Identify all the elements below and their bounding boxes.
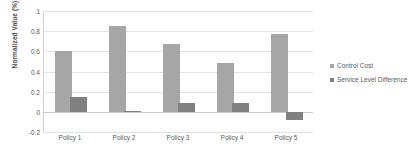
legend: Control CostService Level Difference (330, 62, 407, 83)
legend-label: Control Cost (337, 62, 373, 69)
bar (109, 26, 126, 112)
x-axis-tick-label: Policy 1 (43, 134, 97, 141)
plot-area (43, 11, 313, 132)
y-axis-tick-label: 1 (6, 8, 40, 15)
y-axis-tick-labels: 10.80.60.40.20-0.2 (0, 11, 40, 132)
x-axis-tick-label: Policy 5 (259, 134, 313, 141)
bar (178, 103, 195, 112)
y-axis-tick-label: 0.4 (6, 68, 40, 75)
legend-swatch-icon (330, 64, 334, 68)
x-axis-tick-label: Policy 2 (97, 134, 151, 141)
x-axis-tick-label: Policy 4 (205, 134, 259, 141)
legend-item[interactable]: Control Cost (330, 62, 407, 69)
bar (286, 112, 303, 121)
y-axis-tick-label: 0 (6, 108, 40, 115)
y-axis-tick-label: 0.6 (6, 48, 40, 55)
y-axis-tick-label: 0.2 (6, 88, 40, 95)
bar-group (97, 11, 151, 132)
bar-groups (43, 11, 313, 132)
legend-label: Service Level Difference (337, 76, 407, 83)
bar-group (205, 11, 259, 132)
legend-swatch-icon (330, 78, 334, 82)
x-axis-tick-label: Policy 3 (151, 134, 205, 141)
bar-group (151, 11, 205, 132)
legend-item[interactable]: Service Level Difference (330, 76, 407, 83)
y-axis-tick-label: -0.2 (6, 129, 40, 136)
x-axis-tick-labels: Policy 1Policy 2Policy 3Policy 4Policy 5 (43, 134, 313, 141)
bar-group (43, 11, 97, 132)
y-axis-tick-label: 0.8 (6, 28, 40, 35)
bar-chart: Normalized Value (%) 10.80.60.40.20-0.2 … (0, 0, 418, 156)
gridline (43, 132, 313, 133)
bar-group (259, 11, 313, 132)
bar (70, 97, 87, 112)
bar (232, 103, 249, 112)
bar (271, 34, 288, 112)
bar (124, 111, 141, 112)
bar (163, 44, 180, 112)
